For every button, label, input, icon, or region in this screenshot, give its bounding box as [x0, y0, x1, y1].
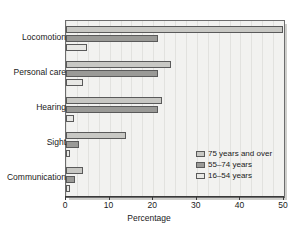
legend-item-75-and-over[interactable]: 75 years and over: [196, 150, 272, 158]
bar[interactable]: [66, 167, 83, 174]
bar[interactable]: [66, 35, 158, 42]
x-tick-label: 40: [235, 201, 244, 210]
bar-group: [66, 26, 284, 51]
bar-group: [66, 61, 284, 86]
legend: 75 years and over 55–74 years 16–54 year…: [196, 150, 272, 180]
legend-item-16-54[interactable]: 16–54 years: [196, 172, 272, 180]
category-label: Hearing: [36, 103, 66, 112]
legend-label-55-74: 55–74 years: [208, 161, 252, 169]
bar[interactable]: [66, 61, 171, 68]
x-tick-label: 30: [191, 201, 200, 210]
x-tick-label: 20: [147, 201, 156, 210]
gridline-vertical: [284, 21, 285, 197]
category-label: Sight: [47, 138, 66, 147]
bar[interactable]: [66, 185, 70, 192]
x-tick-label: 50: [278, 201, 287, 210]
category-label: Personal care: [14, 68, 66, 77]
legend-swatch-icon-75-and-over: [196, 151, 205, 157]
x-axis-line: [65, 196, 283, 197]
x-tick-label: 0: [63, 201, 68, 210]
bar-chart: LocomotionPersonal careHearingSightCommu…: [0, 0, 298, 230]
bar[interactable]: [66, 115, 74, 122]
bar[interactable]: [66, 176, 75, 183]
category-label: Locomotion: [22, 33, 66, 42]
bar[interactable]: [66, 26, 283, 33]
legend-swatch-icon-16-54: [196, 173, 205, 179]
bar[interactable]: [66, 97, 162, 104]
bar[interactable]: [66, 79, 83, 86]
legend-swatch-icon-55-74: [196, 162, 205, 168]
bar[interactable]: [66, 106, 158, 113]
bar[interactable]: [66, 150, 70, 157]
bar[interactable]: [66, 132, 126, 139]
x-axis-title: Percentage: [0, 214, 298, 223]
category-label: Communication: [7, 173, 66, 182]
x-tick-label: 10: [104, 201, 113, 210]
bar[interactable]: [66, 70, 158, 77]
bar-group: [66, 97, 284, 122]
bar[interactable]: [66, 44, 87, 51]
legend-item-55-74[interactable]: 55–74 years: [196, 161, 272, 169]
legend-label-75-and-over: 75 years and over: [208, 150, 272, 158]
legend-label-16-54: 16–54 years: [208, 172, 252, 180]
bar[interactable]: [66, 141, 79, 148]
